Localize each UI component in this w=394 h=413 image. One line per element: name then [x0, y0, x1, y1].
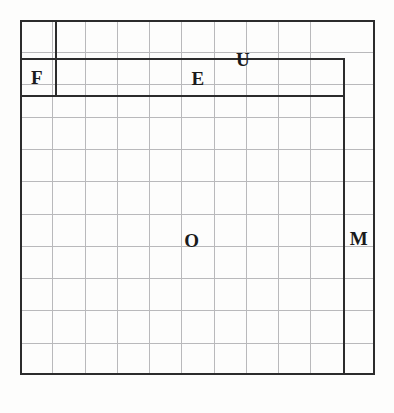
region-label-e: E: [191, 69, 204, 88]
region-label-o: O: [184, 231, 199, 250]
scanned-page-background: U F E O M: [0, 0, 394, 413]
diagram-frame: U F E O M: [20, 20, 375, 375]
region-label-u: U: [236, 50, 250, 69]
region-label-f: F: [31, 68, 43, 87]
region-label-m: M: [350, 229, 368, 248]
